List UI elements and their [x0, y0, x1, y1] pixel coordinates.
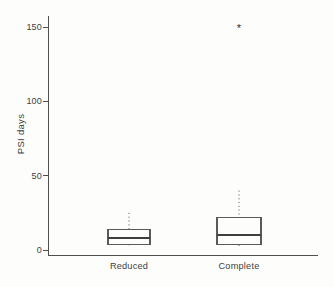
y-tick-label: 50 — [12, 171, 42, 181]
outlier-marker: * — [237, 22, 242, 34]
boxplot-figure: * PSI days 050100150ReducedComplete — [0, 0, 334, 287]
x-category-label: Complete — [204, 261, 274, 272]
y-tick-label: 100 — [12, 96, 42, 106]
y-tick-label: 0 — [12, 245, 42, 255]
box-reduced — [108, 229, 150, 244]
plot-area: * — [0, 0, 334, 287]
x-category-label: Reduced — [94, 261, 164, 272]
y-tick-label: 150 — [12, 22, 42, 32]
box-complete — [217, 217, 261, 245]
